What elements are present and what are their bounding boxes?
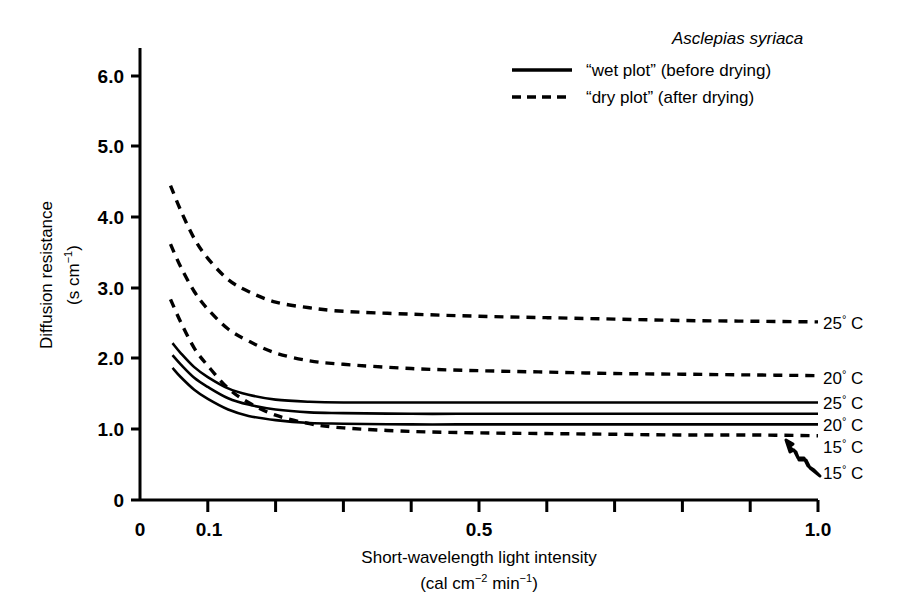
curve-wet-20C xyxy=(173,355,818,414)
x-tick-label-0: 0 xyxy=(135,519,146,540)
y-axis-title-line2: (s cm−1) xyxy=(62,245,83,305)
x-unit-post: ) xyxy=(532,574,538,593)
curve-label-dry-15C: 15° C xyxy=(823,463,863,483)
y-axis-title-line1: Diffusion resistance xyxy=(37,201,56,349)
label-dry-15C-value: 15 xyxy=(823,464,842,483)
legend: Asclepias syriaca “wet plot” (before dry… xyxy=(512,29,803,107)
x-axis-title-line1: Short-wavelength light intensity xyxy=(361,548,597,567)
legend-species-name: Asclepias syriaca xyxy=(671,29,803,48)
data-curves xyxy=(171,186,818,436)
x-unit-pre: (cal cm xyxy=(420,574,475,593)
y-tick-label-5: 5.0 xyxy=(98,136,124,157)
y-unit-pre: (s cm xyxy=(64,263,83,305)
curve-wet-15C xyxy=(173,368,818,425)
x-tick-label-1.0: 1.0 xyxy=(805,519,831,540)
curve-label-wet-15C: 15° C xyxy=(823,437,863,457)
y-tick-label-3: 3.0 xyxy=(98,278,124,299)
curve-label-wet-25C: 25° C xyxy=(823,393,863,413)
label-wet-25C-value: 25 xyxy=(823,394,842,413)
curve-label-dry-20C: 20° C xyxy=(823,368,863,388)
arrow-to-dry-15C-icon xyxy=(786,440,820,476)
label-dry-25C-value: 25 xyxy=(823,314,842,333)
curve-label-wet-20C: 20° C xyxy=(823,415,863,435)
curve-label-dry-25C: 25° C xyxy=(823,313,863,333)
label-dry-20C-value: 20 xyxy=(823,369,842,388)
curve-end-labels: 25° C 20° C 25° C 20° C 15° C 15° C xyxy=(823,313,863,483)
y-unit-sup: −1 xyxy=(62,251,74,264)
x-axis-ticks xyxy=(208,500,818,512)
x-unit-sup2: −1 xyxy=(520,572,533,584)
figure-container: 0 1.0 2.0 3.0 4.0 5.0 6.0 0 0.1 0.5 1.0 xyxy=(0,0,905,608)
x-axis-title-line2: (cal cm−2 min−1) xyxy=(420,572,538,593)
curve-dry-25C xyxy=(171,186,818,322)
x-axis-tick-labels: 0 0.1 0.5 1.0 xyxy=(135,519,832,540)
x-axis-title: Short-wavelength light intensity (cal cm… xyxy=(361,548,597,593)
x-tick-label-0.1: 0.1 xyxy=(196,519,223,540)
legend-label-wet-plot: “wet plot” (before drying) xyxy=(586,61,771,80)
x-tick-label-0.5: 0.5 xyxy=(466,519,493,540)
y-unit-post: ) xyxy=(64,245,83,251)
y-tick-label-6: 6.0 xyxy=(98,66,124,87)
label-wet-15C-value: 15 xyxy=(823,438,842,457)
y-tick-label-0: 0 xyxy=(113,490,124,511)
chart-canvas: 0 1.0 2.0 3.0 4.0 5.0 6.0 0 0.1 0.5 1.0 xyxy=(0,0,905,608)
x-unit-sup1: −2 xyxy=(475,572,488,584)
y-tick-label-4: 4.0 xyxy=(98,207,124,228)
y-axis-tick-labels: 0 1.0 2.0 3.0 4.0 5.0 6.0 xyxy=(98,66,124,511)
legend-label-dry-plot: “dry plot” (after drying) xyxy=(586,88,754,107)
y-tick-label-1: 1.0 xyxy=(98,419,124,440)
x-unit-mid: min xyxy=(487,574,519,593)
curve-dry-20C xyxy=(171,244,818,375)
label-wet-20C-value: 20 xyxy=(823,416,842,435)
y-tick-label-2: 2.0 xyxy=(98,348,124,369)
axes xyxy=(140,48,818,500)
y-axis-title: Diffusion resistance (s cm−1) xyxy=(37,201,83,349)
